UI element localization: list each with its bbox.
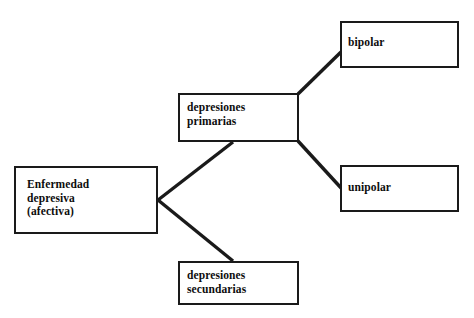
diagram-canvas: Enfermedad depresiva (afectiva) depresio… — [0, 0, 474, 318]
node-enfermedad-depresiva-label: Enfermedad depresiva (afectiva) — [27, 178, 89, 219]
edge-primarias-to-unipolar — [298, 141, 342, 189]
node-depresiones-secundarias-label: depresiones secundarias — [187, 269, 246, 296]
node-depresiones-primarias-label: depresiones primarias — [187, 101, 245, 128]
node-bipolar-label: bipolar — [348, 36, 385, 50]
edge-primarias-to-bipolar — [298, 52, 341, 94]
edge-root-to-secundarias — [158, 200, 233, 261]
edge-root-to-primarias — [158, 142, 233, 200]
node-unipolar-label: unipolar — [348, 181, 391, 195]
